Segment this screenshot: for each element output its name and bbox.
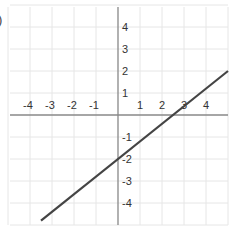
- x-tick-label: -2: [67, 99, 77, 111]
- y-tick-label: 2: [122, 65, 128, 77]
- y-tick-label: -4: [122, 197, 132, 209]
- x-tick-label: -3: [45, 99, 55, 111]
- y-tick-label: -3: [122, 175, 132, 187]
- y-tick-label: 4: [122, 21, 128, 33]
- x-tick-label: -4: [23, 99, 33, 111]
- y-tick-label: -1: [122, 131, 132, 143]
- x-tick-label: 1: [137, 99, 143, 111]
- x-tick-label: 4: [203, 99, 209, 111]
- y-tick-label: 3: [122, 43, 128, 55]
- x-tick-label: 2: [159, 99, 165, 111]
- x-tick-label: -1: [89, 99, 99, 111]
- axes: [10, 7, 228, 225]
- coordinate-plane: -4-3-2-11234 4321-1-2-3-4: [0, 0, 234, 232]
- y-tick-label: 1: [122, 87, 128, 99]
